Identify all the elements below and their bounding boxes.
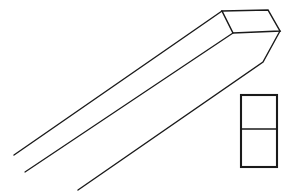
technical-line-drawing bbox=[0, 0, 288, 193]
cross-section-rectangle bbox=[241, 95, 277, 167]
cross-section-group bbox=[241, 95, 277, 167]
illustration-root bbox=[0, 0, 288, 193]
